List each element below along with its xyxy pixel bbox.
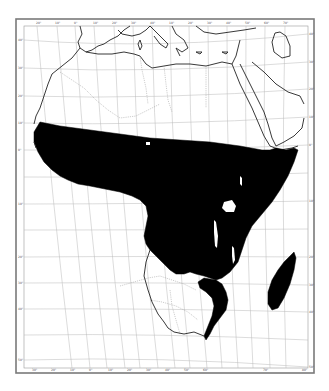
svg-text:40°: 40° bbox=[18, 307, 24, 311]
svg-text:0°: 0° bbox=[309, 143, 313, 147]
svg-text:10°: 10° bbox=[18, 121, 24, 125]
left-ticks: 40° 30° 20° 10° 0° 10° 20° 30° 40° 50° bbox=[18, 38, 24, 362]
svg-text:20°: 20° bbox=[309, 255, 315, 259]
svg-text:30°: 30° bbox=[32, 368, 38, 372]
svg-text:20°: 20° bbox=[18, 94, 24, 98]
svg-text:40°: 40° bbox=[18, 38, 24, 42]
svg-text:10°: 10° bbox=[93, 21, 99, 25]
svg-text:50°: 50° bbox=[309, 365, 315, 369]
top-ticks: 20° 10° 0° 10° 20° 30° 40° 10° 20° 30° 4… bbox=[36, 21, 289, 25]
svg-text:30°: 30° bbox=[18, 66, 24, 70]
svg-text:20°: 20° bbox=[112, 21, 118, 25]
svg-text:20°: 20° bbox=[309, 87, 315, 91]
svg-text:50°: 50° bbox=[18, 358, 24, 362]
svg-text:10°: 10° bbox=[18, 202, 24, 206]
africa-distribution-map: 20° 10° 0° 10° 20° 30° 40° 10° 20° 30° 4… bbox=[0, 0, 329, 391]
svg-text:20°: 20° bbox=[36, 21, 42, 25]
svg-text:20°: 20° bbox=[188, 21, 194, 25]
svg-text:60°: 60° bbox=[264, 21, 270, 25]
svg-text:50°: 50° bbox=[245, 21, 251, 25]
svg-text:40°: 40° bbox=[165, 368, 171, 372]
svg-text:30°: 30° bbox=[131, 21, 137, 25]
svg-text:30°: 30° bbox=[309, 60, 315, 64]
lake-chad bbox=[146, 142, 150, 145]
svg-text:80°: 80° bbox=[302, 368, 308, 372]
svg-text:10°: 10° bbox=[55, 21, 61, 25]
svg-text:40°: 40° bbox=[309, 32, 315, 36]
svg-text:10°: 10° bbox=[309, 115, 315, 119]
svg-text:40°: 40° bbox=[226, 21, 232, 25]
svg-text:20°: 20° bbox=[51, 368, 57, 372]
distribution-range bbox=[34, 122, 298, 340]
range-southeast-coast bbox=[198, 278, 228, 340]
svg-text:30°: 30° bbox=[309, 283, 315, 287]
bottom-ticks: 30° 20° 10° 0° 10° 20° 30° 40° 50° 60° 7… bbox=[32, 368, 308, 372]
range-mainland bbox=[34, 122, 298, 280]
svg-text:20°: 20° bbox=[127, 368, 133, 372]
svg-text:30°: 30° bbox=[207, 21, 213, 25]
svg-text:50°: 50° bbox=[184, 368, 190, 372]
svg-text:10°: 10° bbox=[70, 368, 76, 372]
svg-text:40°: 40° bbox=[309, 310, 315, 314]
svg-text:10°: 10° bbox=[169, 21, 175, 25]
svg-text:0°: 0° bbox=[18, 148, 22, 152]
svg-text:70°: 70° bbox=[263, 368, 269, 372]
range-madagascar bbox=[268, 252, 296, 310]
svg-text:20°: 20° bbox=[18, 255, 24, 259]
svg-text:0°: 0° bbox=[89, 368, 93, 372]
svg-text:70°: 70° bbox=[283, 21, 289, 25]
svg-text:0°: 0° bbox=[74, 21, 78, 25]
svg-text:10°: 10° bbox=[108, 368, 114, 372]
svg-text:30°: 30° bbox=[146, 368, 152, 372]
svg-text:10°: 10° bbox=[309, 199, 315, 203]
svg-text:60°: 60° bbox=[203, 368, 209, 372]
svg-text:30°: 30° bbox=[18, 281, 24, 285]
svg-text:40°: 40° bbox=[150, 21, 156, 25]
